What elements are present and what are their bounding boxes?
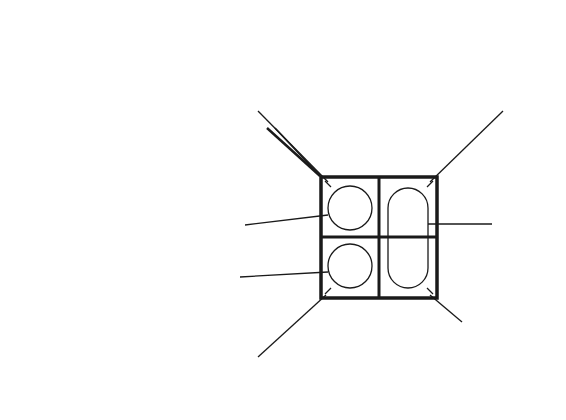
loop-circle-Dbar xyxy=(328,244,372,288)
connector-top-right xyxy=(430,111,503,182)
diagram-canvas xyxy=(0,0,566,420)
leader-row0-term xyxy=(245,215,328,225)
leader-row1-term xyxy=(240,272,328,277)
connector-bottom-left xyxy=(258,295,326,357)
main-map xyxy=(240,128,492,298)
loop-circle-B xyxy=(328,186,372,230)
main-map-corner-diagonal xyxy=(267,128,320,176)
karnaugh-diagram xyxy=(0,0,566,420)
main-map-corner-diagonal-2 xyxy=(275,128,320,176)
